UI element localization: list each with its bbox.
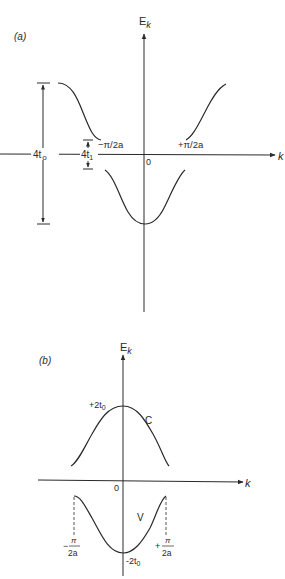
panel-b: (b) Ek k 0 +2t0 C V -2t0 − π 2a + π [38,341,251,576]
panel-a-origin-label: 0 [146,157,151,167]
panel-b-pos-zone-boundary: + π 2a [155,536,174,558]
band-structure-diagram: (a) Ek k 0 4to 4t1 −π/2a +π/2a (b) [0,0,285,579]
panel-a: (a) Ek k 0 4to 4t1 −π/2a +π/2a [0,15,284,312]
panel-a-k-axis-label: k [278,150,284,162]
panel-b-valence-band-label: V [137,512,144,523]
panel-b-bottom-value: -2t0 [126,556,141,567]
panel-b-energy-axis-label: Ek [120,341,132,356]
svg-text:π: π [165,536,171,545]
panel-a-label: (a) [14,31,26,42]
svg-text:+: + [155,541,160,551]
panel-b-conduction-band [71,406,169,466]
panel-b-top-value: +2t0 [89,400,106,411]
panel-b-label: (b) [39,355,51,366]
panel-a-neg-zone-boundary: −π/2a [98,139,124,150]
svg-text:2a: 2a [162,548,172,558]
panel-a-lower-band [105,170,185,224]
panel-b-valence-band [74,496,166,553]
panel-b-k-axis-label: k [245,477,251,489]
panel-b-conduction-band-label: C [145,415,152,426]
panel-a-upper-band-left [58,83,101,140]
panel-a-pos-zone-boundary: +π/2a [178,139,204,150]
panel-a-energy-axis-label: Ek [139,15,151,30]
svg-text:2a: 2a [68,548,78,558]
panel-b-k-axis [38,480,243,482]
panel-b-origin-label: 0 [114,483,119,493]
panel-a-upper-band-right [186,84,226,140]
panel-b-neg-zone-boundary: − π 2a [63,536,80,558]
svg-text:π: π [71,536,77,545]
